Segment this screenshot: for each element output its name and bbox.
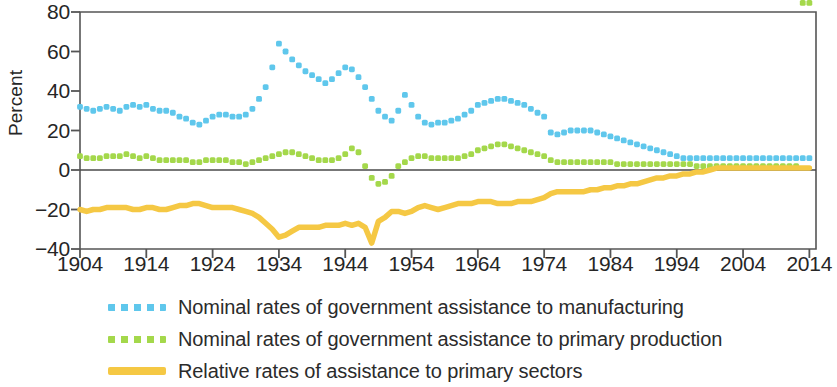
series-manufacturing <box>77 41 812 161</box>
series-marker-primary_production <box>661 161 667 167</box>
x-tick-label: 2014 <box>764 252 837 276</box>
series-marker-primary_production <box>283 149 289 155</box>
y-tick-label-text: −20 <box>14 199 70 220</box>
series-marker-primary_production <box>77 153 83 159</box>
legend-item-label: Relative rates of assistance to primary … <box>178 360 582 382</box>
series-marker-manufacturing <box>535 110 541 116</box>
series-marker-manufacturing <box>574 128 580 134</box>
series-marker-manufacturing <box>329 76 335 82</box>
series-marker-manufacturing <box>130 102 136 108</box>
series-marker-manufacturing <box>375 108 381 114</box>
series-marker-primary_production <box>243 161 249 167</box>
series-marker-manufacturing <box>548 130 554 136</box>
legend-item[interactable]: Nominal rates of government assistance t… <box>108 291 808 323</box>
legend-item[interactable]: Nominal rates of government assistance t… <box>108 323 808 355</box>
series-marker-primary_production <box>342 151 348 157</box>
x-tick-label-text: 1904 <box>57 252 103 275</box>
series-marker-manufacturing <box>740 155 746 161</box>
series-marker-manufacturing <box>654 147 660 153</box>
series-marker-primary_production <box>468 151 474 157</box>
series-marker-primary_production <box>548 157 554 163</box>
series-marker-primary_production <box>296 151 302 157</box>
x-tick-label-text: 1934 <box>256 252 302 275</box>
series-marker-primary_production <box>402 159 408 165</box>
series-marker-primary_production <box>422 153 428 159</box>
x-tick-label-text: 2004 <box>720 252 766 275</box>
series-marker-manufacturing <box>216 112 222 118</box>
series-marker-primary_production <box>541 153 547 159</box>
series-marker-manufacturing <box>614 136 620 142</box>
plot-region: Percent 806040200−20−40 1904191419241934… <box>0 0 827 270</box>
series-marker-primary_production <box>395 163 401 169</box>
series-marker-manufacturing <box>734 155 740 161</box>
series-marker-primary_production <box>322 157 328 163</box>
plot-frame <box>80 12 816 249</box>
series-marker-manufacturing <box>641 143 647 149</box>
y-tick-label-text: 0 <box>14 159 70 180</box>
y-tick-label: 80 <box>14 1 70 22</box>
series-marker-manufacturing <box>143 102 149 108</box>
series-marker-manufacturing <box>561 130 567 136</box>
series-marker-primary_production <box>687 161 693 167</box>
series-marker-primary_production <box>329 157 335 163</box>
series-marker-manufacturing <box>568 128 574 134</box>
x-tick-label-text: 1994 <box>654 252 700 275</box>
series-marker-manufacturing <box>90 108 96 114</box>
series-marker-manufacturing <box>495 96 501 102</box>
series-line-relative <box>80 168 809 243</box>
series-marker-manufacturing <box>110 106 116 112</box>
series-marker-manufacturing <box>203 118 209 124</box>
series-marker-manufacturing <box>97 106 103 112</box>
legend-item[interactable]: Relative rates of assistance to primary … <box>108 355 808 387</box>
series-marker-manufacturing <box>488 98 494 104</box>
series-marker-manufacturing <box>475 102 481 108</box>
series-marker-primary_production <box>309 155 315 161</box>
series-marker-manufacturing <box>429 122 435 128</box>
series-marker-manufacturing <box>196 122 202 128</box>
series-marker-manufacturing <box>793 155 799 161</box>
legend-swatch-dotted <box>108 336 166 343</box>
series-marker-primary_production <box>236 159 242 165</box>
series-marker-primary_production <box>488 143 494 149</box>
series-marker-manufacturing <box>177 114 183 120</box>
series-marker-primary_production <box>429 155 435 161</box>
series-marker-manufacturing <box>137 104 143 110</box>
x-tick-label-text: 1964 <box>455 252 501 275</box>
series-marker-manufacturing <box>289 57 295 63</box>
series-marker-primary_production <box>581 159 587 165</box>
series-marker-primary_production <box>196 159 202 165</box>
series-marker-manufacturing <box>714 155 720 161</box>
y-axis-ticks <box>71 12 80 249</box>
series-marker-manufacturing <box>124 104 130 110</box>
series-marker-manufacturing <box>263 84 269 90</box>
series-marker-manufacturing <box>581 128 587 134</box>
x-tick-label-text: 1944 <box>322 252 368 275</box>
series-marker-primary_production <box>800 0 806 6</box>
series-marker-manufacturing <box>77 104 83 110</box>
series-marker-primary_production <box>448 155 454 161</box>
series-marker-primary_production <box>369 175 375 181</box>
y-tick-label-text: 80 <box>14 1 70 22</box>
series-marker-manufacturing <box>104 104 110 110</box>
series-marker-primary_production <box>495 141 501 147</box>
series-marker-primary_production <box>700 163 706 169</box>
series-marker-primary_production <box>594 159 600 165</box>
series-marker-manufacturing <box>634 141 640 147</box>
y-tick-label: 40 <box>14 80 70 101</box>
series-marker-manufacturing <box>501 96 507 102</box>
series-marker-manufacturing <box>508 98 514 104</box>
series-marker-primary_production <box>84 155 90 161</box>
series-marker-primary_production <box>163 157 169 163</box>
y-tick-label: −20 <box>14 199 70 220</box>
series-marker-manufacturing <box>760 155 766 161</box>
chart-legend: Nominal rates of government assistance t… <box>108 291 808 387</box>
series-marker-manufacturing <box>753 155 759 161</box>
series-marker-manufacturing <box>409 102 415 108</box>
series-marker-manufacturing <box>117 108 123 114</box>
series-marker-manufacturing <box>243 112 249 118</box>
y-tick-label-text: 60 <box>14 41 70 62</box>
series-relative <box>80 168 809 243</box>
series-marker-primary_production <box>362 163 368 169</box>
y-tick-label-text: 40 <box>14 80 70 101</box>
series-marker-primary_production <box>521 147 527 153</box>
